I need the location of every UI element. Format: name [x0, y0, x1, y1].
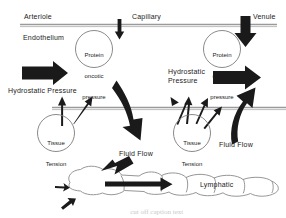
label-fluid-flow-right: Fluid Flow: [219, 141, 253, 149]
protein-oncotic-left-line3: pressure: [74, 94, 114, 101]
hydrostatic-pressure-left-arrow: [22, 61, 68, 85]
capillary-exchange-diagram: .wall { stroke: #9a9a9a; stroke-width: 1…: [0, 0, 286, 218]
tissue-tension-right-text: Tissue Tension: [172, 126, 212, 182]
label-fluid-flow-center: Fluid Flow: [119, 150, 153, 158]
tissue-tension-right-line2: Tension: [172, 161, 212, 168]
cut-off-caption-text: cut off caption text: [6, 209, 183, 216]
tissue-tension-left-line1: Tissue: [36, 140, 76, 147]
filtration-curved-arrow: [112, 81, 143, 141]
tissue-tension-left-line2: Tension: [36, 161, 76, 168]
label-lymphatic: Lymphatic: [200, 181, 233, 189]
capillary-upper-wall: [20, 25, 277, 27]
tissue-tension-right-line1: Tissue: [172, 140, 212, 147]
label-hydrostatic-pressure-right-line2: Pressure: [168, 77, 198, 85]
label-capillary: Capillary: [132, 13, 161, 21]
protein-oncotic-left-line2: oncotic: [74, 73, 114, 80]
protein-oncotic-right-text: Protein oncotic pressure: [202, 38, 242, 115]
diagram-canvas: .wall { stroke: #9a9a9a; stroke-width: 1…: [0, 0, 286, 218]
protein-oncotic-left-text: Protein oncotic pressure: [74, 38, 114, 115]
lymph-inflow-arrow: [101, 156, 134, 175]
label-hydrostatic-pressure-left: Hydrostatic Pressure: [8, 87, 77, 95]
protein-oncotic-right-line1: Protein: [202, 52, 242, 59]
label-arteriole: Arteriole: [24, 13, 52, 21]
label-endothelium: Endothelium: [23, 34, 64, 42]
cut-off-caption-strip: cut off caption text: [0, 209, 286, 218]
lymph-flow-arrow: [105, 178, 173, 191]
protein-oncotic-left-line1: Protein: [74, 52, 114, 59]
label-venule: Venule: [253, 13, 276, 21]
oncotic-arrow-down-left: [115, 19, 124, 40]
label-hydrostatic-pressure-right-line1: Hydrostatic: [168, 68, 205, 76]
protein-oncotic-right-line3: pressure: [202, 94, 242, 101]
protein-oncotic-right-line2: oncotic: [202, 73, 242, 80]
lymph-small-inlet-arrows: [55, 183, 76, 210]
tissue-tension-left-text: Tissue Tension: [36, 126, 76, 182]
